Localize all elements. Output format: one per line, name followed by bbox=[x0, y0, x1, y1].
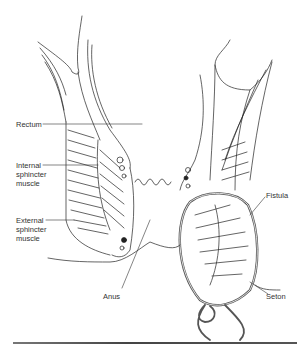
anal-canal-lining bbox=[135, 179, 171, 185]
seton-loop bbox=[180, 193, 258, 340]
right-rectal-wall bbox=[180, 40, 272, 190]
label-external-sphincter: External sphincter muscle bbox=[16, 216, 46, 243]
left-rectal-wall bbox=[38, 16, 134, 257]
label-internal-sphincter: Internal sphincter muscle bbox=[16, 161, 46, 188]
vessel-icon bbox=[117, 157, 123, 163]
bottom-divider bbox=[13, 342, 297, 344]
leader-lines bbox=[43, 124, 268, 294]
label-seton: Seton bbox=[266, 292, 286, 301]
label-rectum: Rectum bbox=[16, 120, 42, 129]
label-fistula: Fistula bbox=[266, 191, 288, 200]
skin-surface bbox=[48, 242, 180, 262]
label-anus: Anus bbox=[103, 292, 120, 301]
